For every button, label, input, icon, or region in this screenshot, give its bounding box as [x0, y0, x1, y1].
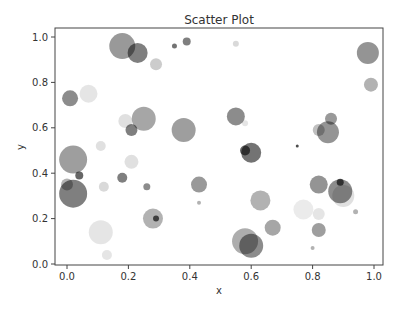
x-tick-label: 0.4 — [182, 271, 198, 282]
data-point — [310, 176, 328, 194]
data-point — [293, 200, 313, 220]
data-point — [233, 41, 239, 47]
data-point — [143, 183, 150, 190]
data-point — [89, 220, 113, 244]
x-tick-label: 0.8 — [305, 271, 321, 282]
x-tick-label: 0.2 — [120, 271, 136, 282]
data-point — [61, 179, 73, 191]
data-point — [353, 209, 358, 214]
y-axis-ticks: 0.00.20.40.60.81.0 — [32, 32, 55, 270]
data-point — [79, 85, 97, 103]
data-point — [239, 234, 263, 258]
data-point — [125, 124, 137, 136]
data-point — [313, 124, 325, 136]
data-point — [337, 179, 344, 186]
x-tick-label: 0.0 — [59, 271, 75, 282]
data-point — [197, 201, 201, 205]
data-point — [332, 185, 354, 207]
data-point — [311, 246, 315, 250]
chart-title: Scatter Plot — [184, 13, 254, 27]
y-tick-label: 0.0 — [32, 259, 48, 270]
data-point — [128, 43, 148, 63]
data-point — [124, 155, 138, 169]
data-point — [117, 173, 127, 183]
data-point — [99, 182, 109, 192]
data-point — [59, 146, 87, 174]
data-point — [102, 250, 112, 260]
data-point — [62, 90, 78, 106]
y-tick-label: 0.8 — [32, 77, 48, 88]
x-tick-label: 0.6 — [243, 271, 259, 282]
data-point — [364, 78, 378, 92]
data-point — [265, 220, 281, 236]
data-point — [242, 120, 248, 126]
y-tick-label: 0.6 — [32, 122, 48, 133]
data-point — [153, 216, 159, 222]
x-axis-ticks: 0.00.20.40.60.81.0 — [59, 265, 382, 282]
data-point — [75, 171, 83, 179]
x-tick-label: 1.0 — [366, 271, 382, 282]
y-axis-label: y — [15, 144, 26, 150]
data-point — [143, 209, 163, 229]
data-point — [96, 141, 106, 151]
data-point — [240, 146, 250, 156]
y-tick-label: 0.2 — [32, 213, 48, 224]
data-point — [183, 38, 191, 46]
data-point — [313, 208, 325, 220]
data-point — [312, 223, 326, 237]
data-point — [250, 190, 270, 210]
data-point — [172, 118, 196, 142]
data-point — [296, 144, 299, 147]
y-tick-label: 1.0 — [32, 32, 48, 43]
y-tick-label: 0.4 — [32, 168, 48, 179]
data-point — [191, 177, 207, 193]
data-point — [172, 44, 177, 49]
data-point — [357, 42, 379, 64]
data-point — [150, 58, 162, 70]
x-axis-label: x — [216, 285, 222, 296]
scatter-chart: Scatter Plot 0.00.20.40.60.81.0 0.00.20.… — [0, 0, 405, 309]
